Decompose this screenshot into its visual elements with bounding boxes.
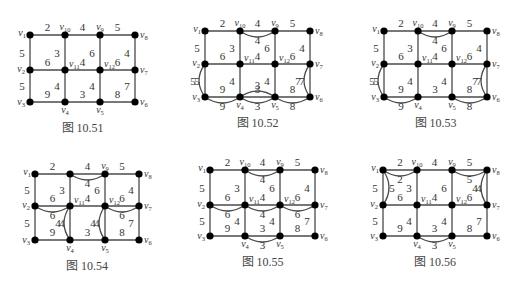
edge-weight: 4 xyxy=(89,80,95,92)
edge-weight: 8 xyxy=(467,100,473,112)
vertex-label: v2 xyxy=(192,57,200,69)
edge-weight: 3 xyxy=(432,239,438,251)
edge-weight: 6 xyxy=(45,56,51,68)
edge-weight: 6 xyxy=(89,47,95,59)
edge-weight: 7 xyxy=(295,75,301,87)
edge-weight: 2 xyxy=(50,160,56,172)
vertex-v12 xyxy=(271,60,278,67)
vertex-v3 xyxy=(201,93,208,100)
vertex-label: v7 xyxy=(140,64,148,76)
edge-weight: 4 xyxy=(432,50,438,62)
vertex-label: v2 xyxy=(17,63,25,75)
vertex-label: v12 xyxy=(284,193,295,205)
vertex-v6 xyxy=(131,98,138,105)
edge-weight: 4 xyxy=(432,34,438,46)
vertex-v8 xyxy=(131,31,138,38)
edge-weight: 4 xyxy=(260,191,266,203)
edge-weight: 4 xyxy=(299,42,305,54)
vertex-v11 xyxy=(413,201,420,208)
vertex-label: v8 xyxy=(320,164,328,176)
edge-weight: 6 xyxy=(264,42,270,54)
vertex-label: v4 xyxy=(236,99,244,111)
edge-weight: 4 xyxy=(432,156,438,168)
vertex-v7 xyxy=(311,201,318,208)
vertex-v6 xyxy=(483,93,490,100)
edge-weight: 6 xyxy=(225,208,231,220)
vertex-label: v9 xyxy=(96,21,104,33)
vertex-v3 xyxy=(26,98,33,105)
vertex-v12 xyxy=(276,201,283,208)
figure-caption: 图 10.54 xyxy=(66,259,108,273)
figure-caption: 图 10.51 xyxy=(62,121,104,135)
figure-10-56: 2455364646544793825543v1v10v9v8v2v11v12v… xyxy=(370,156,500,269)
edge-weight: 4 xyxy=(55,217,61,229)
edge-weight: 4 xyxy=(264,75,270,87)
figure-caption: 图 10.56 xyxy=(414,255,456,269)
edge-weight: 4 xyxy=(80,21,86,33)
vertex-v3 xyxy=(206,232,213,239)
vertex-v12 xyxy=(448,201,455,208)
edge-weight: 3 xyxy=(234,182,240,194)
edge-weight: 6 xyxy=(220,50,226,62)
vertex-v2 xyxy=(206,201,213,208)
vertex-label: v11 xyxy=(421,193,432,205)
edge-weight: 6 xyxy=(115,56,121,68)
vertex-label: v6 xyxy=(320,230,328,242)
edge-weight: 5 xyxy=(295,156,301,168)
edge-weight: 8 xyxy=(119,226,125,238)
edge-weight: 4 xyxy=(85,192,91,204)
vertex-v3 xyxy=(31,236,38,243)
vertex-label: v10 xyxy=(60,21,71,33)
vertex-v7 xyxy=(131,66,138,73)
edge-weight: 4 xyxy=(234,215,240,227)
figure-caption: 图 10.53 xyxy=(415,116,457,130)
vertex-label: v4 xyxy=(413,238,421,250)
edge-weight: 9 xyxy=(397,222,403,234)
edge-weight: 4 xyxy=(441,215,447,227)
edge-weight: 4 xyxy=(472,182,478,194)
vertex-v11 xyxy=(236,60,243,67)
figure-caption: 图 10.52 xyxy=(237,116,279,130)
vertex-label: v4 xyxy=(241,238,249,250)
double-edge-v7-v6 xyxy=(481,64,487,97)
edge-weight: 5 xyxy=(372,215,378,227)
vertex-v11 xyxy=(61,66,68,73)
edge-weight: 4 xyxy=(54,80,60,92)
edge-weight: 4 xyxy=(476,42,482,54)
edge-weight: 3 xyxy=(432,83,438,95)
edge-weight: 6 xyxy=(94,184,100,196)
vertex-label: v1 xyxy=(371,162,379,174)
vertex-v2 xyxy=(31,202,38,209)
edge-weight: 5 xyxy=(19,47,25,59)
vertex-label: v1 xyxy=(193,23,201,35)
edge-weight: 4 xyxy=(255,50,261,62)
figure-10-54: 2455364646544793846446v1v9v8v2v11v12v7v3… xyxy=(22,160,152,273)
edge-weight: 5 xyxy=(115,21,121,33)
edge-weight: 9 xyxy=(398,100,404,112)
vertex-v12 xyxy=(101,202,108,209)
vertex-label: v1 xyxy=(23,166,31,178)
edge-weight: 3 xyxy=(54,47,60,59)
vertex-label: v8 xyxy=(492,25,500,37)
vertex-v6 xyxy=(306,93,313,100)
figure-caption: 图 10.55 xyxy=(242,255,284,269)
edge-weight: 6 xyxy=(269,182,275,194)
edge-weight: 5 xyxy=(389,182,395,194)
vertex-v12 xyxy=(96,66,103,73)
vertex-label: v2 xyxy=(371,57,379,69)
vertex-v6 xyxy=(135,236,142,243)
vertex-v8 xyxy=(306,27,313,34)
edge-weight: 8 xyxy=(467,222,473,234)
edge-weight: 9 xyxy=(220,83,226,95)
vertex-label: v9 xyxy=(101,160,109,172)
edge-weight: 4 xyxy=(269,215,275,227)
vertex-v8 xyxy=(483,166,490,173)
edge-weight: 4 xyxy=(90,217,96,229)
vertex-label: v7 xyxy=(492,199,500,211)
edge-weight: 5 xyxy=(372,182,378,194)
edge-weight: 3 xyxy=(255,79,261,91)
vertex-label: v10 xyxy=(413,17,424,29)
vertex-label: v5 xyxy=(448,99,456,111)
edge-weight: 2 xyxy=(220,17,226,29)
edge-weight: 4 xyxy=(255,34,261,46)
